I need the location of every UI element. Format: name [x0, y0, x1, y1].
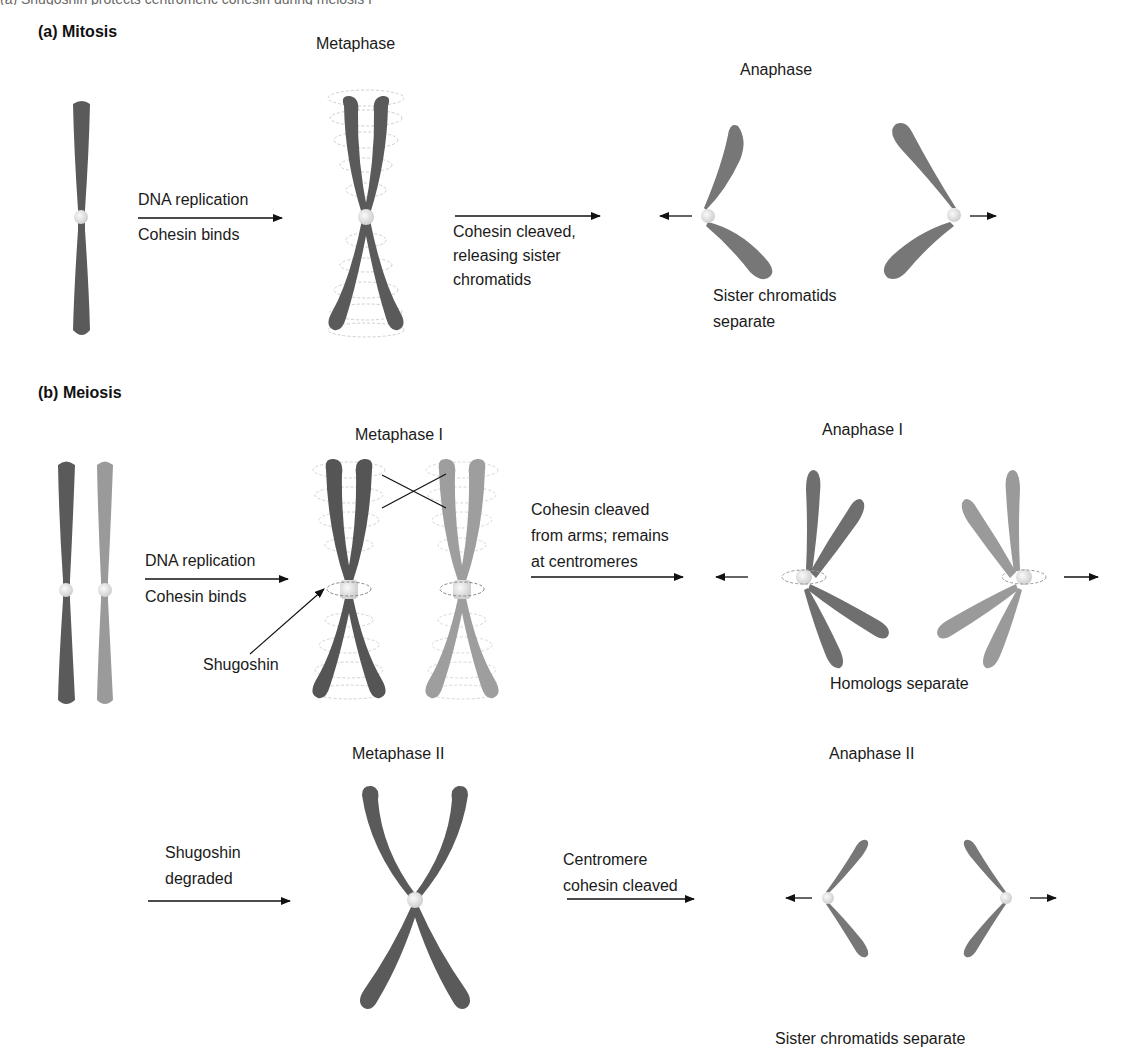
meiosis-anaphase1-right	[937, 470, 1046, 668]
meiosis-metaphase1-homolog-dark	[312, 459, 385, 699]
centromere-icon	[98, 583, 112, 597]
centromere-icon	[74, 210, 88, 224]
meiosis-metaphase1-homolog-light	[425, 459, 498, 699]
meiosis-anaphase2-left	[822, 840, 868, 958]
centromere-icon	[1016, 569, 1032, 585]
meiosis-unreplicated-homologs	[58, 462, 113, 705]
centromere-icon	[822, 892, 834, 904]
mitosis-metaphase-chromosome	[328, 90, 404, 337]
meiosis-anaphase2-right	[964, 840, 1012, 958]
centromere-icon	[358, 209, 374, 225]
centromere-icon	[947, 208, 961, 222]
centromere-icon	[701, 209, 715, 223]
meiosis-anaphase1-left	[782, 470, 889, 668]
mitosis-anaphase-left	[701, 125, 772, 279]
diagram-artwork	[0, 0, 1121, 1064]
mitosis-anaphase-right	[819, 123, 961, 279]
meiosis-metaphase2-chromosome	[360, 786, 470, 1009]
shugoshin-pointer-arrow	[250, 589, 324, 654]
centromere-icon	[1000, 892, 1012, 904]
mitosis-unreplicated-chromosome	[73, 101, 90, 335]
centromere-icon	[59, 583, 73, 597]
crossover-chiasma-lines	[382, 474, 446, 508]
centromere-icon	[407, 892, 423, 908]
centromere-icon	[796, 569, 812, 585]
